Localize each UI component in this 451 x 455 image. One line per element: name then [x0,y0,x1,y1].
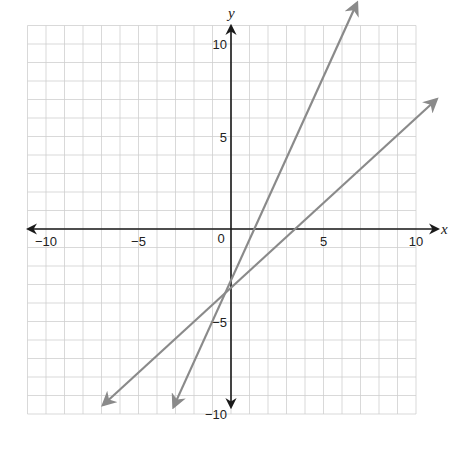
y-tick-label: −10 [205,407,227,422]
y-tick-label: 10 [213,37,227,52]
line-shallow [103,100,436,405]
line-steep [174,3,357,406]
y-axis-label: y [226,5,235,21]
axes [28,26,438,407]
x-tick-label: −10 [35,234,57,249]
x-axis-label: x [440,221,448,237]
x-tick-label: −5 [131,234,146,249]
tick-labels: −10−50510105−5−10xy [35,5,448,422]
x-tick-label: 10 [409,234,423,249]
x-tick-label: 0 [217,231,224,246]
data-lines [103,3,436,406]
y-tick-label: −5 [212,315,227,330]
grid-lines [28,26,417,415]
y-tick-label: 5 [220,130,227,145]
coordinate-plane: −10−50510105−5−10xy [0,0,451,455]
x-tick-label: 5 [320,234,327,249]
